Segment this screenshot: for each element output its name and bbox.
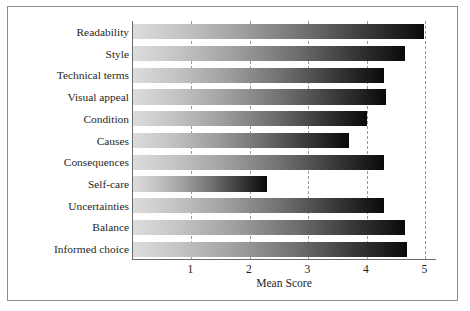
- plot-area: [132, 21, 436, 260]
- category-label-self-care: Self-care: [18, 178, 129, 190]
- category-label-technical-terms: Technical terms: [18, 69, 129, 81]
- category-label-readability: Readability: [18, 26, 129, 38]
- category-label-balance: Balance: [18, 221, 129, 233]
- bar-visual-appeal: [133, 89, 386, 104]
- category-label-uncertainties: Uncertainties: [18, 200, 129, 212]
- x-tick-label-4: 4: [363, 263, 369, 277]
- category-label-style: Style: [18, 48, 129, 60]
- bar-row: [133, 46, 436, 61]
- bar-uncertainties: [133, 198, 384, 213]
- category-label-condition: Condition: [18, 113, 129, 125]
- bar-row: [133, 89, 436, 104]
- bar-readability: [133, 24, 424, 39]
- bar-condition: [133, 111, 367, 126]
- x-tick-label-2: 2: [246, 263, 252, 277]
- bar-row: [133, 111, 436, 126]
- x-tick-label-3: 3: [304, 263, 310, 277]
- x-tick-label-5: 5: [421, 263, 427, 277]
- bar-row: [133, 24, 436, 39]
- category-label-consequences: Consequences: [18, 156, 129, 168]
- bar-self-care: [133, 176, 267, 191]
- bar-technical-terms: [133, 68, 384, 83]
- figure-container: ReadabilityStyleTechnical termsVisual ap…: [0, 0, 470, 311]
- category-label-causes: Causes: [18, 135, 129, 147]
- bar-row: [133, 176, 436, 191]
- bar-row: [133, 242, 436, 257]
- category-axis-labels: ReadabilityStyleTechnical termsVisual ap…: [18, 21, 129, 260]
- bar-row: [133, 155, 436, 170]
- bar-causes: [133, 133, 349, 148]
- bar-balance: [133, 220, 405, 235]
- bar-row: [133, 198, 436, 213]
- bar-row: [133, 133, 436, 148]
- category-label-visual-appeal: Visual appeal: [18, 91, 129, 103]
- bar-informed-choice: [133, 242, 407, 257]
- bar-consequences: [133, 155, 384, 170]
- bar-style: [133, 46, 405, 61]
- bar-row: [133, 220, 436, 235]
- x-tick-label-1: 1: [188, 263, 194, 277]
- figure-frame: ReadabilityStyleTechnical termsVisual ap…: [7, 6, 458, 301]
- category-label-informed-choice: Informed choice: [18, 243, 129, 255]
- x-axis-title: Mean Score: [132, 277, 436, 290]
- bar-row: [133, 68, 436, 83]
- bar-series: [133, 21, 436, 259]
